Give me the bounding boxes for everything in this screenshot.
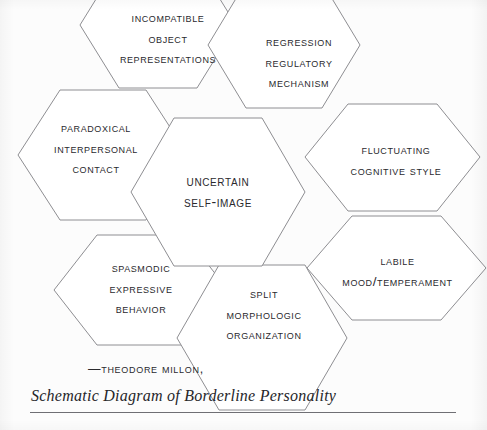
label-line: Representations [101,49,235,70]
label-line: Fluctuating [326,140,466,161]
schematic-diagram-figure: Incompatible Object Representations Regr… [0,0,487,430]
label-line: Self-Image [163,192,273,213]
label-line: Paradoxical [31,118,161,139]
label-line: Uncertain [163,171,273,192]
label-split-morphologic-organization: Split Morphologic Organization [201,284,327,346]
label-line: Regression [238,32,360,53]
label-paradoxical-interpersonal-contact: Paradoxical Interpersonal Contact [31,118,161,180]
label-incompatible-object-representations: Incompatible Object Representations [101,8,235,70]
label-line: Split [201,284,327,305]
label-line: Interpersonal [31,139,161,160]
label-line: Spasmodic [80,258,202,279]
attribution-text: —Theodore Millon, [88,362,204,376]
label-line: Mood/Temperament [320,272,475,293]
label-uncertain-self-image: Uncertain Self-Image [163,171,273,214]
label-line: Morphologic [201,305,327,326]
label-line: Regulatory [238,53,360,74]
label-labile-mood-temperament: Labile Mood/Temperament [320,251,475,292]
label-line: Labile [320,251,475,272]
label-fluctuating-cognitive-style: Fluctuating Cognitive Style [326,140,466,181]
label-line: Expressive [80,279,202,300]
label-line: Mechanism [238,73,360,94]
label-line: Behavior [80,299,202,320]
source-title-text: Schematic Diagram of Borderline Personal… [31,387,336,405]
label-line: Organization [201,325,327,346]
label-line: Incompatible [101,8,235,29]
label-line: Contact [31,159,161,180]
label-spasmodic-expressive-behavior: Spasmodic Expressive Behavior [80,258,202,320]
label-line: Object [101,29,235,50]
label-regression-regulatory-mechanism: Regression Regulatory Mechanism [238,32,360,94]
label-line: Cognitive Style [326,161,466,182]
